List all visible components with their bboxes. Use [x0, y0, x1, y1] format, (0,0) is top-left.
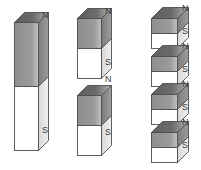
- magnet-quarter-1-south-pole-label: S: [182, 27, 188, 36]
- column-three-quarters: NSNSNSNS: [0, 0, 201, 170]
- magnet-quarter-2-front-face-north: [152, 57, 178, 72]
- magnet-division-diagram: NSNSNSNSNSNSNS: [0, 0, 201, 170]
- magnet-quarter-1-north-pole-label: N: [182, 4, 189, 13]
- magnet-quarter-2-north-pole-label: N: [182, 42, 189, 51]
- magnet-quarter-4-south-pole-label: S: [182, 141, 188, 150]
- magnet-quarter-2-south-pole-label: S: [182, 65, 188, 74]
- magnet-quarter-1-front-face-north: [152, 19, 178, 34]
- magnet-quarter-4-front-face-north: [152, 133, 178, 148]
- magnet-quarter-4-front-face-south: [152, 148, 178, 163]
- magnet-quarter-4-north-pole-label: N: [182, 118, 189, 127]
- magnet-quarter-3-front-face-north: [152, 95, 178, 110]
- magnet-quarter-3-north-pole-label: N: [182, 80, 189, 89]
- magnet-quarter-3-south-pole-label: S: [182, 103, 188, 112]
